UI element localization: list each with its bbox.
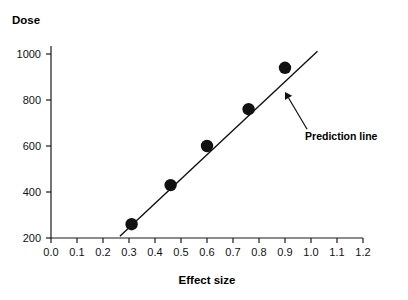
x-axis-ticks bbox=[51, 238, 363, 243]
data-point bbox=[201, 140, 213, 152]
annotation-arrow bbox=[285, 92, 307, 129]
data-point-group bbox=[125, 62, 291, 231]
prediction-line bbox=[120, 51, 318, 236]
x-tick-label: 0.1 bbox=[69, 246, 84, 258]
prediction-line-annotation-label: Prediction line bbox=[305, 130, 378, 142]
y-axis-title: Dose bbox=[12, 14, 40, 26]
x-axis-title: Effect size bbox=[179, 274, 236, 286]
x-tick-label: 0.2 bbox=[95, 246, 110, 258]
x-tick-label: 1.0 bbox=[303, 246, 318, 258]
chart-figure: Dose 0.00.10.20.30.40.50.60.70.80.91.01.… bbox=[0, 0, 408, 300]
x-axis-tick-labels: 0.00.10.20.30.40.50.60.70.80.91.01.11.2 bbox=[43, 246, 370, 258]
y-tick-label: 400 bbox=[23, 186, 41, 198]
data-point bbox=[279, 62, 291, 74]
data-point bbox=[164, 179, 176, 191]
x-tick-label: 0.5 bbox=[173, 246, 188, 258]
y-axis-ticks bbox=[46, 54, 51, 238]
y-axis-tick-labels: 2004006008001000 bbox=[17, 48, 41, 244]
y-tick-label: 1000 bbox=[17, 48, 41, 60]
x-tick-label: 0.4 bbox=[147, 246, 162, 258]
x-tick-label: 0.0 bbox=[43, 246, 58, 258]
y-tick-label: 200 bbox=[23, 232, 41, 244]
x-tick-label: 1.1 bbox=[329, 246, 344, 258]
x-tick-label: 0.9 bbox=[277, 246, 292, 258]
x-tick-label: 0.3 bbox=[121, 246, 136, 258]
x-tick-label: 0.6 bbox=[199, 246, 214, 258]
y-tick-label: 600 bbox=[23, 140, 41, 152]
x-tick-label: 1.2 bbox=[355, 246, 370, 258]
y-tick-label: 800 bbox=[23, 94, 41, 106]
annotation-arrow-line bbox=[289, 98, 308, 129]
data-point bbox=[242, 103, 254, 115]
x-tick-label: 0.7 bbox=[225, 246, 240, 258]
x-tick-label: 0.8 bbox=[251, 246, 266, 258]
data-point bbox=[125, 218, 137, 230]
scatter-plot: Dose 0.00.10.20.30.40.50.60.70.80.91.01.… bbox=[0, 0, 408, 300]
